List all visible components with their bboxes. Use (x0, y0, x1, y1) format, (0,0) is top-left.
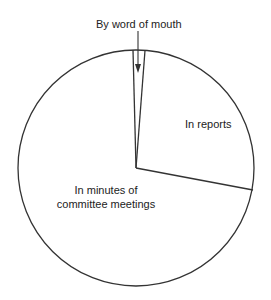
label-in-minutes-line2: committee meetings (45, 197, 167, 211)
label-by-word-of-mouth: By word of mouth (96, 17, 182, 31)
label-in-reports: In reports (185, 117, 231, 131)
label-in-minutes: In minutes of committee meetings (45, 183, 167, 211)
pie-chart (0, 0, 271, 300)
label-in-minutes-line1: In minutes of (45, 183, 167, 197)
